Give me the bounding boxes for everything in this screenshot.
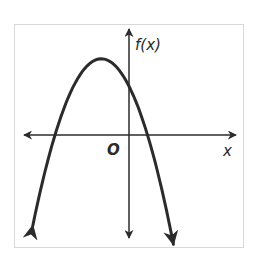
x-axis-label: x — [222, 142, 232, 160]
parabola-chart: f(x) x O — [0, 0, 253, 255]
parabola-curve — [33, 59, 174, 245]
y-axis-label: f(x) — [135, 36, 161, 54]
origin-label: O — [107, 141, 120, 159]
